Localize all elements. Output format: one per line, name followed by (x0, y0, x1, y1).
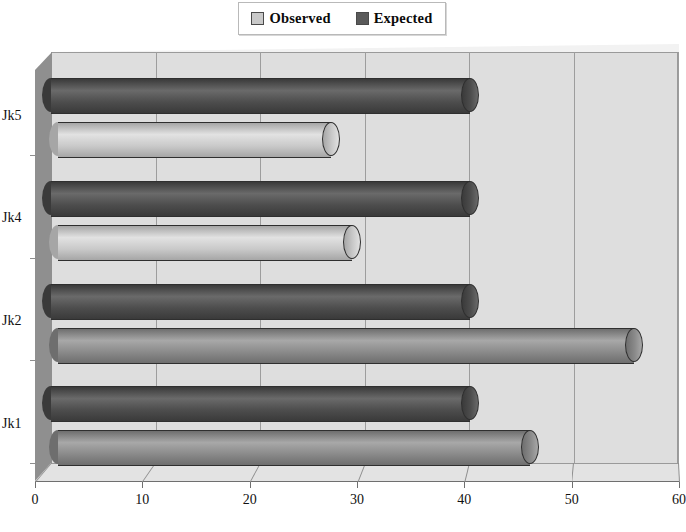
bar-end-cap (461, 284, 479, 318)
y-axis-tick-Jk4 (30, 258, 39, 259)
bar-body (58, 328, 634, 364)
bar-body (51, 78, 470, 114)
gridline-50 (574, 52, 575, 464)
bar-jk1-observed (58, 430, 539, 464)
x-tick-label-20: 20 (243, 492, 257, 508)
x-tick-label-60: 60 (672, 492, 686, 508)
bar-jk1-expected (51, 386, 479, 420)
x-axis-tick-20 (250, 482, 251, 488)
gridline-60 (678, 52, 679, 464)
y-axis-tick-Jk2 (30, 360, 39, 361)
bar-end-cap (461, 78, 479, 112)
x-axis-tick-10 (142, 482, 143, 488)
y-tick-label-Jk2: Jk2 (2, 313, 21, 329)
bar-jk4-observed (58, 225, 361, 259)
floor-tick-0 (35, 463, 52, 482)
x-tick-label-0: 0 (32, 492, 39, 508)
floor-tick-50 (572, 463, 575, 482)
bar-jk2-expected (51, 284, 479, 318)
y-axis-tick-Jk1 (30, 463, 39, 464)
x-axis-tick-0 (35, 482, 36, 488)
x-axis-tick-50 (572, 482, 573, 488)
bar-end-cap (521, 430, 539, 464)
bar-end-cap (322, 122, 340, 156)
bar-end-cap (625, 328, 643, 362)
bar-end-cap (461, 181, 479, 215)
bar-jk5-expected (51, 78, 479, 112)
bar-body (51, 386, 470, 422)
y-tick-label-Jk1: Jk1 (2, 416, 21, 432)
bar-body (51, 284, 470, 320)
x-tick-label-40: 40 (457, 492, 471, 508)
bar-end-cap (343, 225, 361, 259)
x-tick-label-50: 50 (565, 492, 579, 508)
y-axis-tick-Jk5 (30, 155, 39, 156)
y-tick-label-Jk4: Jk4 (2, 210, 21, 226)
x-axis-tick-60 (679, 482, 680, 488)
x-tick-label-10: 10 (135, 492, 149, 508)
x-tick-label-30: 30 (350, 492, 364, 508)
floor-tick-60 (678, 463, 680, 482)
y-tick-label-Jk5: Jk5 (2, 108, 21, 124)
x-axis-tick-30 (357, 482, 358, 488)
bar-body (51, 181, 470, 217)
bar-body (58, 122, 331, 158)
bar-jk5-observed (58, 122, 340, 156)
bar-body (58, 430, 530, 466)
bar-end-cap (461, 386, 479, 420)
bar-jk2-observed (58, 328, 643, 362)
bar-jk4-expected (51, 181, 479, 215)
bar-body (58, 225, 352, 261)
x-axis-tick-40 (464, 482, 465, 488)
